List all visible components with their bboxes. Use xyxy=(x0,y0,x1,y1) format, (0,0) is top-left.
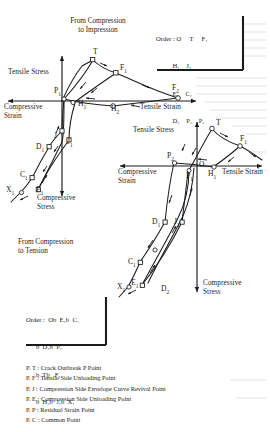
left-point-label-H1: H1 xyxy=(78,100,86,110)
right-softening xyxy=(212,129,240,146)
order-box-top-text: Order : O T F₁ H₁ J₁ E₁ C₁ D₁ P₁ P₁ xyxy=(156,16,208,143)
left-point-label-J1: J1 xyxy=(67,138,73,148)
right-point-label-D2: D2 xyxy=(161,285,169,295)
right-axis-label-compressive-stress: Compressive Stress xyxy=(203,279,242,297)
legend-item: P. P : Residual Strain Point xyxy=(26,405,166,415)
order-top-line-4: D₁ P₁ P₁ xyxy=(156,116,208,125)
order-top-line-3: E₁ C₁ xyxy=(156,89,208,98)
left-axis-label-compressive-strain: Compressive Strain xyxy=(4,103,43,121)
caption-compression-to-tension: From Compression to Tension xyxy=(18,238,114,257)
figure-canvas: From Compression to Impression From Comp… xyxy=(0,0,270,432)
legend-item: P. C : Common Point xyxy=(26,415,166,425)
marker-F1 xyxy=(114,71,118,75)
order-top-line-2: H₁ J₁ xyxy=(156,61,208,70)
right-point-label-O: O xyxy=(199,161,204,169)
right-point-label-T: T xyxy=(216,119,221,127)
right-point-label-D1: D1 xyxy=(152,218,160,228)
right-axis-label-tensile-stress: Tensile Stress xyxy=(133,127,174,135)
left-axis-label-tensile-stress: Tensile Stress xyxy=(8,69,49,77)
left-softening-branch xyxy=(93,60,116,73)
right-axis-label-tensile-strain: Tensile Strain xyxy=(222,169,263,177)
chart-right-direction-ticks xyxy=(128,133,256,294)
left-branch-H1-J1 xyxy=(69,103,75,140)
marker-E1 xyxy=(140,283,144,287)
marker-D2-node xyxy=(153,248,157,252)
marker-C1 xyxy=(138,260,142,264)
left-point-label-H2: H2 xyxy=(111,105,119,115)
left-axis-label-compressive-stress: Compressive Stress xyxy=(37,194,76,212)
marker-J1 xyxy=(180,220,184,224)
order-bottom-line-2: b D₁b P₁ xyxy=(26,342,79,351)
left-point-label-D1: D1 xyxy=(36,143,44,153)
marker-T xyxy=(90,57,94,61)
legend-block: P. T : Crack Outbreak P Point P. F : Ten… xyxy=(26,363,166,425)
right-branch-J1-E1 xyxy=(142,222,182,285)
right-point-label-J1: J1 xyxy=(174,218,180,228)
marker-C1 xyxy=(30,176,34,180)
right-point-label-F1: F1 xyxy=(240,135,247,145)
marker-P1 xyxy=(62,97,66,101)
legend-item: P. E : Compression Side Unloading Point xyxy=(26,394,166,404)
right-point-label-E1: E1 xyxy=(131,279,138,289)
left-point-label-E1: E1 xyxy=(36,186,43,196)
left-point-label-P1: P1 xyxy=(54,87,61,97)
right-comp-reload xyxy=(142,170,189,285)
marker-T xyxy=(210,126,215,131)
marker-D1 xyxy=(163,220,167,224)
legend-item: P. J : Compression Side Envelope Curve R… xyxy=(26,384,166,394)
right-point-label-X1: X1 xyxy=(117,283,125,293)
right-unload-F1-H1 xyxy=(213,146,240,167)
legend-item: P. T : Crack Outbreak P Point xyxy=(26,363,166,373)
right-branch-P2-D1 xyxy=(165,163,174,222)
right-point-label-C1: C1 xyxy=(128,258,136,268)
right-point-label-H1: H1 xyxy=(208,170,216,180)
chart-right-curves xyxy=(119,129,262,297)
legend-item: P. F : Tensile Side Unloading Point xyxy=(26,373,166,383)
left-point-label-F1: F1 xyxy=(120,64,127,74)
left-point-label-F2: F2 xyxy=(172,84,179,94)
left-point-label-T: T xyxy=(93,48,98,56)
marker-D1 xyxy=(47,145,51,149)
left-envelope-tension xyxy=(62,60,93,101)
caption-compression-to-impression: From Compression to Impression xyxy=(50,17,146,36)
right-axis-label-compressive-strain: Compressive Strain xyxy=(118,168,157,186)
right-point-label-P1: P1 xyxy=(186,172,193,182)
right-point-label-P2: P2 xyxy=(167,152,174,162)
left-axis-label-tensile-strain: Tensile Strain xyxy=(140,104,181,112)
order-top-line-1: Order : O T F₁ xyxy=(156,34,208,43)
chart-right-markers xyxy=(127,126,242,289)
left-unload-T-P1 xyxy=(64,60,93,99)
left-point-label-X1: X1 xyxy=(6,186,14,196)
left-point-label-C1: C1 xyxy=(20,171,28,181)
marker-J xyxy=(60,129,64,133)
left-point-label-J: J xyxy=(54,132,57,140)
marker-X1 xyxy=(19,190,23,194)
marker-H1 xyxy=(71,100,75,104)
order-bottom-line-1: Order : Ob E₁b C₁ xyxy=(26,315,79,324)
